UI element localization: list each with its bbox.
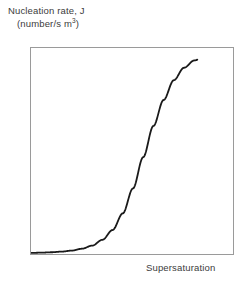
- plot-frame: [30, 47, 234, 255]
- x-axis-label: Supersaturation: [146, 262, 215, 273]
- y-axis-units-prefix: (number/s m: [17, 18, 72, 29]
- y-axis-units-suffix: ): [76, 18, 79, 29]
- sigmoid-curve-svg: [31, 48, 235, 256]
- nucleation-rate-figure: Nucleation rate, J (number/s m3) Supersa…: [0, 0, 250, 286]
- y-axis-label-line-1: Nucleation rate, J: [8, 4, 188, 17]
- nucleation-rate-curve: [31, 60, 197, 253]
- y-axis-label-line-2: (number/s m3): [8, 17, 188, 30]
- y-axis-label: Nucleation rate, J (number/s m3): [8, 4, 188, 30]
